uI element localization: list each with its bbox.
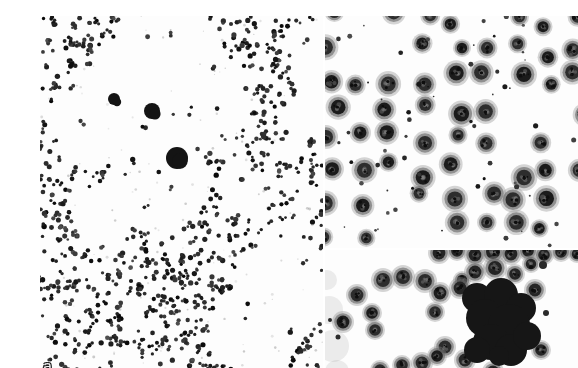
panel-c-micrograph <box>325 250 578 368</box>
panel-b-micrograph <box>325 16 578 248</box>
panel-a-micrograph <box>40 16 323 368</box>
panel-a-label: a <box>43 359 52 368</box>
micrograph-figure: a b c <box>40 16 578 368</box>
